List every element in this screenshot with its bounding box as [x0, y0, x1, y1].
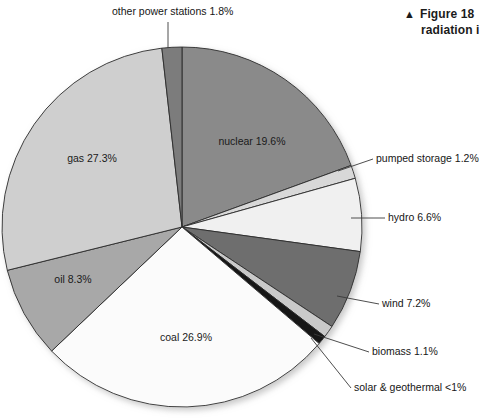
figure-caption-line2: radiation i	[404, 22, 486, 38]
leader-biomass	[314, 334, 369, 352]
slice-label-nuclear: nuclear 19.6%	[218, 135, 285, 147]
slice-label-coal: coal 26.9%	[160, 331, 212, 343]
figure-caption-line1: Figure 18	[420, 7, 474, 21]
callout-label-biomass: biomass 1.1%	[372, 345, 438, 357]
callout-label-pumped-storage: pumped storage 1.2%	[376, 152, 479, 164]
pie-chart: nuclear 19.6%gas 27.3%oil 8.3%coal 26.9%…	[0, 0, 486, 419]
callout-label-wind: wind 7.2%	[381, 297, 430, 309]
callout-label-hydro: hydro 6.6%	[388, 211, 441, 223]
chart-canvas: nuclear 19.6%gas 27.3%oil 8.3%coal 26.9%…	[0, 0, 486, 419]
leader-solar-geothermal	[311, 338, 351, 388]
up-triangle-icon: ▲	[404, 6, 415, 22]
callout-label-solar-geothermal: solar & geothermal <1%	[354, 381, 466, 393]
slice-label-oil: oil 8.3%	[54, 273, 91, 285]
callout-label-other-power-stations: other power stations 1.8%	[112, 5, 233, 17]
figure-caption: ▲Figure 18 radiation i	[404, 6, 486, 38]
slice-label-gas: gas 27.3%	[67, 152, 117, 164]
pie-slices	[2, 47, 362, 407]
